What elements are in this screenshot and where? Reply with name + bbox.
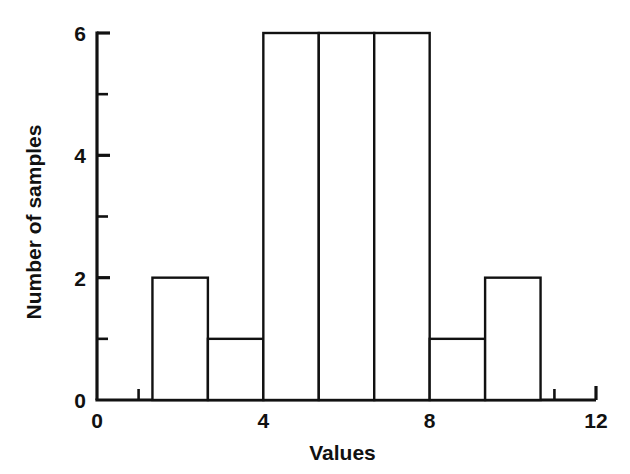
x-axis-tick-label: 4 [257,410,269,431]
histogram-bars [152,33,540,400]
histogram-bar [485,278,540,400]
x-axis-tick-label: 12 [584,410,607,431]
y-axis-tick-label: 4 [56,145,86,166]
histogram-chart: 0246 04812 Values Number of samples [0,0,630,474]
y-axis-tick-label: 0 [56,390,86,411]
histogram-bar [319,33,374,400]
x-axis-tick-label: 0 [91,410,103,431]
histogram-bar [263,33,318,400]
x-axis-title: Values [309,441,376,465]
x-axis-tick-label: 8 [424,410,436,431]
histogram-bar [430,339,485,400]
histogram-bar [208,339,263,400]
y-axis-tick-label: 6 [56,23,86,44]
histogram-bar [152,278,207,400]
y-axis-tick-label: 2 [56,267,86,288]
y-axis-title: Number of samples [22,124,46,319]
plot-area [0,0,630,474]
histogram-bar [374,33,429,400]
